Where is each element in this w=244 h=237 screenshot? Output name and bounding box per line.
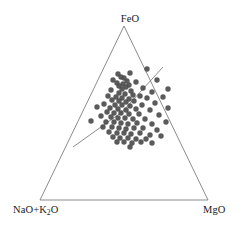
scatter-point (142, 116, 147, 121)
scatter-point (100, 124, 105, 129)
ternary-triangle-outline (40, 26, 208, 200)
scatter-point (131, 125, 136, 130)
scatter-point (152, 100, 157, 105)
vertex-label-nao-k2o: NaO+K2O (13, 204, 58, 217)
scatter-point (118, 120, 123, 125)
scatter-point (144, 66, 149, 71)
scatter-point (115, 115, 120, 120)
scatter-point (149, 89, 154, 94)
scatter-point (109, 97, 114, 102)
scatter-point (140, 85, 145, 90)
scatter-point (137, 93, 142, 98)
scatter-point (138, 139, 143, 144)
scatter-point (104, 109, 109, 114)
scatter-point (147, 107, 152, 112)
scatter-point (119, 102, 124, 107)
scatter-point (165, 105, 170, 110)
scatter-point (111, 119, 116, 124)
scatter-point (139, 102, 144, 107)
scatter-point (98, 113, 103, 118)
scatter-point (114, 130, 119, 135)
vertex-label-feo: FeO (110, 13, 150, 24)
scatter-point (127, 70, 132, 75)
scatter-point (127, 103, 132, 108)
scatter-point (125, 135, 130, 140)
vertex-label-nao-k2o-prefix: NaO+K (13, 204, 47, 215)
scatter-point (106, 129, 111, 134)
scatter-point (165, 86, 170, 91)
scatter-point (114, 139, 119, 144)
scatter-point (154, 127, 159, 132)
scatter-point (149, 121, 154, 126)
scatter-point (133, 106, 138, 111)
scatter-point (163, 119, 168, 124)
triangle-outline-group (40, 26, 208, 200)
scatter-point (133, 136, 138, 141)
scatter-point (116, 125, 121, 130)
scatter-point (103, 119, 108, 124)
scatter-point (108, 87, 113, 92)
scatter-point (160, 94, 165, 99)
scatter-point (158, 133, 163, 138)
scatter-point (121, 139, 126, 144)
scatter-point (154, 77, 159, 82)
ternary-plot-canvas (0, 0, 244, 237)
scatter-point (122, 115, 127, 120)
scatter-point (149, 140, 154, 145)
vertex-label-nao-k2o-suffix: O (51, 204, 59, 215)
scatter-point (118, 110, 123, 115)
scatter-point (126, 111, 131, 116)
scatter-point (94, 104, 99, 109)
scatter-point (144, 95, 149, 100)
scatter-point (125, 121, 130, 126)
scatter-point (105, 93, 110, 98)
scatter-point (88, 118, 93, 123)
ternary-diagram-figure: FeO NaO+K2O MgO (0, 0, 244, 237)
scatter-point (143, 136, 148, 141)
scatter-points-group (88, 66, 170, 149)
scatter-point (110, 134, 115, 139)
scatter-point (101, 101, 106, 106)
scatter-point (134, 120, 139, 125)
scatter-point (136, 111, 141, 116)
vertex-label-mgo: MgO (203, 204, 225, 215)
scatter-point (127, 144, 132, 149)
scatter-point (156, 112, 161, 117)
scatter-point (130, 92, 135, 97)
scatter-point (137, 130, 142, 135)
scatter-point (121, 130, 126, 135)
scatter-point (133, 79, 138, 84)
scatter-point (130, 116, 135, 121)
scatter-point (131, 98, 136, 103)
scatter-point (109, 124, 114, 129)
scatter-point (140, 125, 145, 130)
scatter-point (147, 132, 152, 137)
scatter-point (108, 114, 113, 119)
